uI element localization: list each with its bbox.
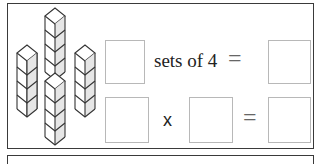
product-input[interactable] [268, 97, 311, 143]
factor-1-input[interactable] [105, 97, 149, 143]
total-input-row1[interactable] [268, 40, 311, 84]
cube-tower-icon [43, 71, 67, 147]
next-problem-frame [7, 155, 314, 164]
cube-tower-icon [15, 43, 39, 119]
sets-count-input[interactable] [105, 40, 145, 84]
cube-tower-icon [73, 43, 97, 119]
equals-sign: = [228, 45, 242, 72]
multiply-sign: x [163, 110, 172, 131]
equals-sign: = [243, 104, 257, 131]
sets-of-label: sets of 4 [154, 50, 217, 72]
factor-2-input[interactable] [189, 97, 233, 143]
